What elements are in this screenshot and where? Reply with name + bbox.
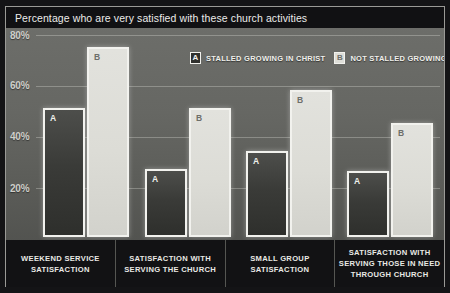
bar-a-group-2: A <box>145 169 187 237</box>
bar-key-label: B <box>398 128 404 138</box>
bar-key-label: B <box>196 113 202 123</box>
bar-key-label: B <box>297 95 303 105</box>
bar-a-group-3: A <box>246 151 288 237</box>
bar-a-group-1: A <box>43 108 85 237</box>
bar-b-group-1: B <box>87 47 129 237</box>
bar-key-label: B <box>94 52 100 62</box>
bar-key-label: A <box>354 176 360 186</box>
page-title: Percentage who are very satisfied with t… <box>6 12 307 24</box>
bar-key-label: A <box>253 156 259 166</box>
category-labels: WEEKEND SERVICE SATISFACTIONSATISFACTION… <box>6 240 444 287</box>
category-label-4: SATISFACTION WITH SERVING THOSE IN NEED … <box>335 240 444 287</box>
bar-a-group-4: A <box>347 171 389 237</box>
bar-b-group-2: B <box>189 108 231 237</box>
bar-key-label: A <box>50 113 56 123</box>
category-label-3: SMALL GROUP SATISFACTION <box>226 240 336 287</box>
bar-b-group-4: B <box>391 123 433 237</box>
category-label-2: SATISFACTION WITH SERVING THE CHURCH <box>116 240 226 287</box>
category-label-1: WEEKEND SERVICE SATISFACTION <box>6 240 116 287</box>
plot-area: 80% 60% 40% 20% A STALLED GROWING IN CHR… <box>6 28 444 240</box>
bar-b-group-3: B <box>290 90 332 237</box>
bar-series-container: ABABABAB <box>6 28 444 240</box>
chart-screenshot: Percentage who are very satisfied with t… <box>0 0 450 293</box>
bar-key-label: A <box>152 174 158 184</box>
chart-title-bar: Percentage who are very satisfied with t… <box>6 7 444 28</box>
